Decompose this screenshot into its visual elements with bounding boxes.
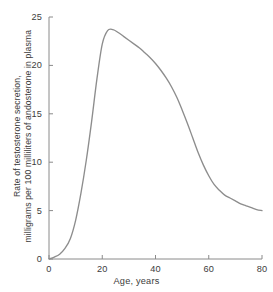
y-tick-label: 0: [0, 254, 42, 264]
x-tick-label: 80: [257, 264, 268, 274]
x-tick-label: 20: [97, 264, 108, 274]
data-line-testosterone: [49, 29, 262, 259]
x-axis-tick-marks: [49, 255, 262, 259]
chart-figure: Rate of testosterone secretion, milligra…: [0, 0, 273, 292]
x-tick-label: 0: [46, 264, 51, 274]
x-axis-label: Age, years: [0, 276, 273, 286]
y-tick-label: 10: [0, 157, 42, 167]
x-tick-label: 60: [203, 264, 214, 274]
plot-area: [0, 0, 273, 292]
axes: [49, 17, 262, 259]
y-tick-label: 15: [0, 109, 42, 119]
x-tick-label: 40: [150, 264, 161, 274]
y-axis-tick-marks: [49, 17, 53, 259]
y-tick-label: 20: [0, 60, 42, 70]
y-tick-label: 5: [0, 206, 42, 216]
y-tick-label: 25: [0, 12, 42, 22]
